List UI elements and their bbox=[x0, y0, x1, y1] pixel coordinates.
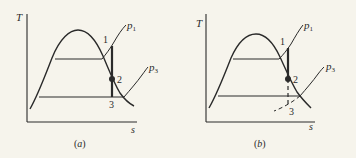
caption-b: (b) bbox=[254, 138, 266, 150]
state-1-label: 1 bbox=[103, 34, 108, 45]
p3-label: p3 bbox=[325, 60, 336, 74]
ts-diagrams: T s p1 p3 1 2 3 (a) T s bbox=[0, 0, 356, 158]
state-2-label: 2 bbox=[293, 74, 298, 85]
saturation-dome bbox=[209, 34, 311, 108]
state-3-label: 3 bbox=[109, 99, 114, 110]
t-axis-label: T bbox=[196, 17, 203, 29]
panel-b: T s p1 p3 1 2 3 (b) bbox=[196, 14, 336, 150]
p1-label: p1 bbox=[126, 19, 137, 33]
state-3-label: 3 bbox=[289, 106, 294, 117]
s-axis-label: s bbox=[131, 124, 135, 135]
t-axis-label: T bbox=[16, 11, 23, 23]
state-1-label: 1 bbox=[280, 36, 285, 47]
isobar-p3-curve bbox=[300, 67, 324, 96]
p1-label: p1 bbox=[303, 19, 314, 33]
state-point-2 bbox=[109, 76, 115, 82]
panel-a: T s p1 p3 1 2 3 (a) bbox=[16, 11, 159, 150]
isobar-p3-metastable-extension bbox=[274, 96, 300, 111]
isobar-p3-curve bbox=[124, 67, 148, 97]
state-point-2 bbox=[285, 76, 291, 82]
state-2-label: 2 bbox=[117, 74, 122, 85]
s-axis-label: s bbox=[309, 121, 313, 132]
caption-a: (a) bbox=[74, 138, 86, 150]
p3-label: p3 bbox=[148, 61, 159, 75]
